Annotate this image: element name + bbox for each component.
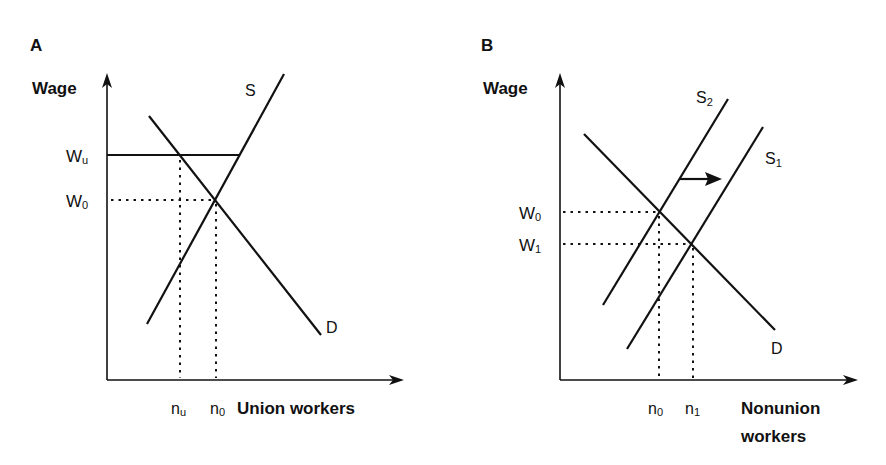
panel-b-x-axis-label-line1: Nonunion xyxy=(741,399,820,418)
panel-a-wu-label: Wu xyxy=(66,147,88,166)
panel-a-supply-label: S xyxy=(245,82,256,99)
panel-b-s1-curve xyxy=(627,127,763,349)
diagram-canvas: A Wage S D Wu W0 nu n0 Union workers B W… xyxy=(0,0,886,465)
panel-b-label: B xyxy=(481,36,493,55)
panel-a-n0-label: n0 xyxy=(210,400,225,418)
panel-a-w0-label: W0 xyxy=(66,192,88,211)
panel-a-label: A xyxy=(30,36,42,55)
panel-a-demand-label: D xyxy=(326,319,338,336)
panel-a-demand-curve xyxy=(149,116,321,335)
panel-b-demand-label: D xyxy=(771,340,783,357)
panel-b-demand-curve xyxy=(584,134,775,330)
panel-b-w0-label: W0 xyxy=(519,204,541,223)
panel-a-x-axis-label: Union workers xyxy=(237,399,355,418)
panel-b-s1-label: S1 xyxy=(765,150,782,169)
panel-b-s2-curve xyxy=(603,99,728,305)
panel-b-n1-label: n1 xyxy=(685,400,700,418)
panel-b-y-axis-label: Wage xyxy=(483,79,528,98)
panel-a-nu-label: nu xyxy=(171,400,186,418)
panel-a-y-axis-label: Wage xyxy=(32,79,77,98)
panel-a: A Wage S D Wu W0 nu n0 Union workers xyxy=(30,36,404,418)
panel-b-s2-label: S2 xyxy=(696,89,713,108)
panel-b-n0-label: n0 xyxy=(648,400,663,418)
panel-b-w1-label: W1 xyxy=(519,236,541,255)
panel-b-x-axis-label-line2: workers xyxy=(740,427,806,446)
panel-b: B Wage S2 S1 D W0 W1 n0 n1 Nonunion work… xyxy=(481,36,858,446)
